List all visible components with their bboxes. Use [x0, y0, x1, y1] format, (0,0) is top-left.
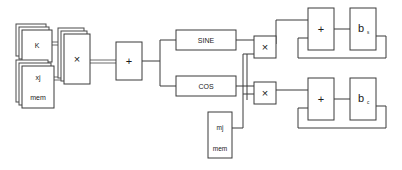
block-sine-multiplier-label: ×	[262, 41, 268, 53]
block-sine[interactable]: SINE	[176, 30, 236, 50]
wire-adder-fanout	[142, 40, 176, 86]
block-cos[interactable]: COS	[176, 76, 236, 96]
block-cos-accumulator-adder[interactable]: +	[308, 78, 334, 120]
block-sine-label: SINE	[198, 37, 215, 44]
block-input-adder-label: +	[126, 55, 132, 67]
block-cos-multiplier-label: ×	[262, 87, 268, 99]
block-mj-label: mj	[217, 124, 224, 132]
block-bs-register[interactable]: b s	[350, 8, 376, 50]
block-cos-label: COS	[198, 83, 214, 90]
block-cos-accumulator-adder-label: +	[318, 93, 324, 105]
block-xj-label: xj	[35, 74, 41, 82]
block-input-multiplier-label: ×	[74, 53, 80, 65]
wire-mult-to-adder	[90, 60, 116, 63]
block-xj-mem-label: mem	[30, 94, 46, 101]
block-diagram: K xj mem × + SINE COS	[0, 0, 402, 170]
block-mj-mem-label: mem	[213, 145, 227, 152]
block-bs-register-label: b	[358, 22, 364, 34]
block-xj-mem[interactable]: xj mem	[16, 60, 54, 108]
block-bc-register-label: b	[358, 92, 364, 104]
block-sine-multiplier[interactable]: ×	[254, 36, 276, 58]
block-k-label: K	[35, 42, 40, 49]
block-sine-accumulator-adder[interactable]: +	[308, 8, 334, 50]
block-input-adder[interactable]: +	[116, 42, 142, 80]
diagram-canvas: K xj mem × + SINE COS	[0, 0, 402, 170]
wire-mult-sine-to-acc-s	[276, 20, 308, 44]
block-input-multiplier[interactable]: ×	[58, 28, 90, 84]
block-mj-mem[interactable]: mj mem	[208, 112, 232, 158]
block-cos-multiplier[interactable]: ×	[254, 82, 276, 104]
block-sine-accumulator-adder-label: +	[318, 23, 324, 35]
block-bc-register[interactable]: b c	[350, 78, 376, 120]
block-k-mem[interactable]: K	[16, 24, 52, 62]
